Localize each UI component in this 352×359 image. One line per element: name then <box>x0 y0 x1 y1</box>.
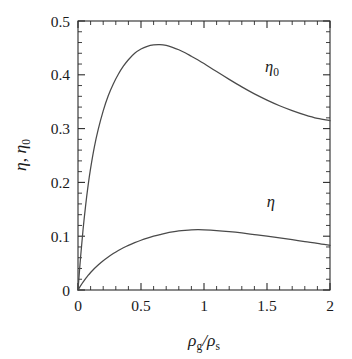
figure-container: 00.511.52 00.10.20.30.40.5 ρg/ρs η, η0 η… <box>0 0 352 359</box>
x-axis-label-rho-g: ρ <box>187 330 196 350</box>
line-chart: 00.511.52 00.10.20.30.40.5 ρg/ρs η, η0 η… <box>0 0 352 359</box>
y-tick-label: 0 <box>62 282 70 299</box>
x-tick-label: 2 <box>326 297 334 314</box>
y-tick-label: 0.1 <box>51 228 70 245</box>
x-axis-label: ρg/ρs <box>187 330 220 353</box>
y-tick-label: 0.3 <box>51 120 71 137</box>
eta-curve-label: η <box>267 192 275 211</box>
y-tick-label: 0.5 <box>51 13 71 30</box>
x-tick-label: 1.5 <box>257 297 277 314</box>
x-tick-label: 1 <box>200 297 208 314</box>
x-tick-label: 0.5 <box>131 297 151 314</box>
x-tick-label: 0 <box>74 297 82 314</box>
y-tick-label: 0.2 <box>51 174 70 191</box>
y-tick-label: 0.4 <box>51 66 71 83</box>
